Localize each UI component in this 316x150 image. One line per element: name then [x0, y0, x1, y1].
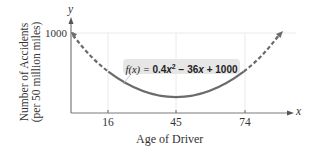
x-axis-title: Age of Driver: [136, 132, 203, 147]
y-axis-title: Number of Accidents (per 50 million mile…: [0, 0, 60, 150]
curve-dashed-left: [73, 35, 108, 72]
x-tick-45: 45: [170, 116, 182, 128]
y-axis-title-line1: Number of Accidents: [18, 22, 30, 123]
y-axis-arrow-icon: [69, 17, 74, 24]
function-annotation: f(x) = 0.4x2 − 36x + 1000: [123, 59, 240, 74]
x-axis-var: x: [296, 105, 301, 117]
x-tick-74: 74: [239, 116, 251, 128]
curve-dashed-right: [244, 35, 279, 72]
x-axis-arrow-icon: [287, 111, 294, 116]
y-axis-title-line2: (per 50 million miles): [30, 22, 42, 123]
y-axis-var: y: [68, 3, 73, 15]
function-name: f(x) =: [125, 64, 149, 75]
x-tick-16: 16: [102, 116, 114, 128]
